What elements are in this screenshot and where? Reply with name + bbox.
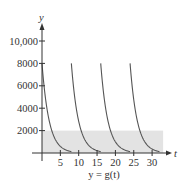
y-axis-arrow-icon	[40, 23, 45, 30]
y-tick-label: 2000	[17, 125, 38, 136]
chart-caption: y = g(t)	[88, 169, 120, 181]
x-tick-label: 5	[58, 157, 63, 168]
x-axis-label: t	[174, 148, 178, 159]
x-tick-label: 20	[110, 157, 121, 168]
y-tick-label: 6000	[17, 80, 38, 91]
x-tick-label: 15	[92, 157, 103, 168]
x-tick-label: 25	[129, 157, 140, 168]
y-axis-label: y	[38, 12, 44, 23]
y-tick-label: 4000	[17, 103, 38, 114]
chart: 200040006000800010,00051015202530 y t y …	[0, 0, 181, 190]
x-axis-arrow-icon	[166, 151, 172, 156]
y-tick-label: 10,000	[9, 36, 38, 47]
x-tick-label: 10	[73, 157, 84, 168]
y-tick-label: 8000	[17, 58, 38, 69]
x-tick-label: 30	[147, 157, 158, 168]
